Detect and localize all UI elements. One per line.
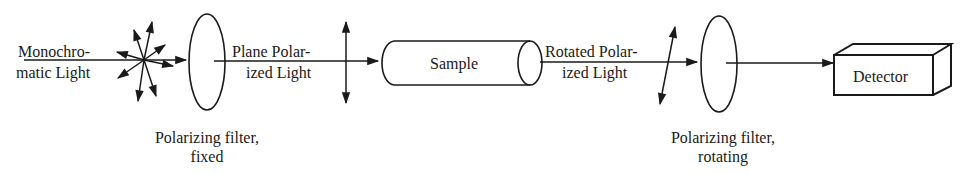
fixed-filter-caption-line1: Polarizing filter,	[127, 128, 287, 147]
plane-label-line1: Plane Polar-	[232, 42, 310, 61]
source-label-line1: Monochro-	[18, 42, 90, 61]
rotated-label-line2: ized Light	[562, 63, 627, 82]
rotating-filter-caption-line2: rotating	[643, 147, 803, 166]
detector-label: Detector	[853, 67, 908, 86]
fixed-filter-icon	[189, 14, 225, 110]
rotating-filter-icon	[701, 16, 737, 112]
rotated-polarization-icon	[660, 27, 675, 104]
plane-label-line2: ized Light	[246, 63, 311, 82]
source-label-line2: matic Light	[16, 63, 90, 82]
rotating-filter-caption-line1: Polarizing filter,	[643, 128, 803, 147]
unpolarized-starburst-icon	[117, 22, 173, 101]
rotated-label-line1: Rotated Polar-	[545, 42, 638, 61]
sample-label: Sample	[430, 54, 478, 73]
fixed-filter-caption-line2: fixed	[127, 147, 287, 166]
